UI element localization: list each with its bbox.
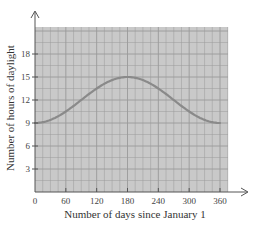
y-tick-label: 18 (21, 49, 31, 59)
x-tick-label: 360 (213, 196, 227, 206)
x-axis-title: Number of days since January 1 (64, 208, 205, 220)
daylight-chart: 060120180240300360 369121518 Number of d… (0, 0, 260, 232)
y-axis-title: Number of hours of daylight (4, 45, 16, 171)
x-tick-label: 240 (152, 196, 166, 206)
plot-area (35, 27, 228, 192)
x-tick-label: 120 (90, 196, 104, 206)
x-tick-label: 60 (61, 196, 71, 206)
y-tick-label: 12 (21, 95, 30, 105)
x-tick-label: 300 (182, 196, 196, 206)
plot-background (35, 27, 228, 192)
y-tick-label: 9 (26, 118, 31, 128)
y-tick-label: 3 (26, 164, 31, 174)
y-tick-label: 6 (26, 141, 31, 151)
x-tick-label: 180 (121, 196, 135, 206)
y-tick-label: 15 (21, 72, 31, 82)
x-tick-label: 0 (33, 196, 38, 206)
